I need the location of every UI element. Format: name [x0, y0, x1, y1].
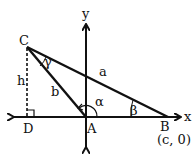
x-axis-label: x [184, 109, 192, 124]
y-axis-label: y [81, 6, 90, 21]
angle-alpha-label: α [95, 94, 104, 109]
side-h-label: h [17, 73, 26, 88]
side-b-label: b [51, 84, 59, 99]
side-b [27, 47, 86, 117]
right-angle-marker [27, 110, 34, 117]
point-a-label: A [86, 121, 97, 136]
point-d-label: D [23, 121, 33, 136]
side-a-label: a [99, 64, 107, 79]
point-c-label: C [19, 33, 29, 48]
point-b-coords: (c, 0) [157, 132, 191, 147]
angle-gamma-label: γ [44, 54, 52, 69]
triangle-diagram: y x C D A B (c, 0) h a b γ α β [0, 0, 194, 156]
angle-beta-label: β [130, 103, 138, 118]
